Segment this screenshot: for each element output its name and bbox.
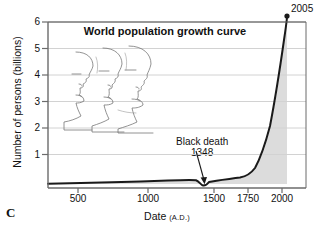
plot-area (0, 0, 326, 237)
faces-illustration-icon (64, 46, 153, 133)
endpoint-marker-2005 (284, 13, 289, 18)
y-tick-marks (42, 22, 48, 155)
annotation-arrow-black-death (196, 151, 207, 184)
figure-panel: C Number of persons (billions) Date (A.D… (0, 0, 326, 237)
x-tick-marks (78, 188, 282, 193)
